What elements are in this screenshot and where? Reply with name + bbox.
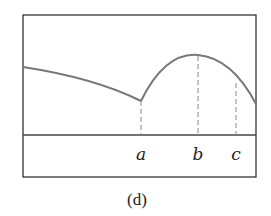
curve-left-branch xyxy=(23,67,141,101)
figure-caption: (d) xyxy=(127,190,147,209)
label-c: c xyxy=(231,144,241,164)
label-a: a xyxy=(136,144,146,164)
figure-d: a b c (d) xyxy=(0,0,271,216)
label-b: b xyxy=(193,144,204,164)
